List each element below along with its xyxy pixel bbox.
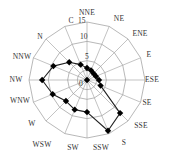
direction-label-ese: ESE [145,75,159,84]
radial-tick-0: 0 [79,79,83,88]
wind-rose-chart: NNENEENEEESESESSESSSWSWWSWWWNWNWNNWNC 05… [0,0,172,166]
direction-label-ne: NE [114,14,125,23]
direction-label-n: N [37,32,43,41]
direction-label-c: C [68,16,73,25]
direction-label-se: SE [142,98,151,107]
radial-tick-5: 5 [85,52,89,61]
direction-label-e: E [147,50,152,59]
spoke-nnw [46,39,87,80]
radial-tick-10: 10 [80,32,88,41]
spoke-sse [87,80,128,121]
direction-label-ssw: SSW [93,143,110,152]
direction-label-wnw: WNW [10,96,31,105]
direction-label-s: S [122,138,126,147]
direction-label-sw: SW [67,143,79,152]
direction-label-ene: ENE [132,29,147,38]
direction-label-wsw: WSW [33,140,53,149]
direction-label-nnw: NNW [13,52,32,61]
data-point-n [77,61,83,67]
radial-tick-15: 15 [78,16,86,25]
direction-label-sse: SSE [134,121,148,130]
direction-label-nw: NW [10,75,24,84]
direction-label-w: W [28,119,36,128]
